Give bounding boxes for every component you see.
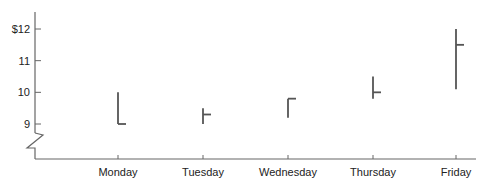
y-tick-label: 9 (24, 118, 30, 130)
x-tick-label: Tuesday (182, 166, 224, 178)
y-axis-labels: $1211109 (12, 23, 30, 130)
x-tick-label: Thursday (350, 166, 396, 178)
hlc-bar-tuesday (203, 108, 211, 124)
hlc-bar-friday (456, 29, 464, 89)
y-tick-label: 11 (19, 55, 30, 67)
x-tick-label: Wednesday (259, 166, 317, 178)
chart-canvas: $1211109 MondayTuesdayWednesdayThursdayF… (0, 0, 486, 186)
y-tick-label: 10 (18, 86, 30, 98)
x-axis-labels: MondayTuesdayWednesdayThursdayFriday (98, 166, 471, 178)
y-tick-label: $12 (12, 23, 30, 35)
price-bars (118, 29, 464, 124)
axis-break-icon (27, 133, 43, 159)
high-low-close-chart: $1211109 MondayTuesdayWednesdayThursdayF… (0, 0, 486, 186)
x-tick-label: Monday (98, 166, 138, 178)
axes (27, 12, 476, 159)
hlc-bar-thursday (373, 77, 381, 99)
x-tick-label: Friday (441, 166, 472, 178)
hlc-bar-wednesday (288, 99, 296, 118)
hlc-bar-monday (118, 92, 126, 124)
